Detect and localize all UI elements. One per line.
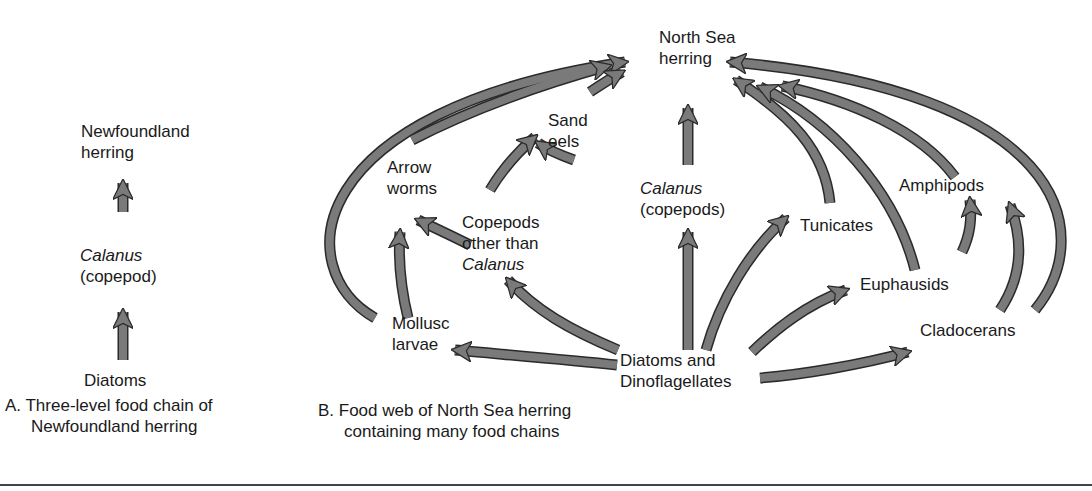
node-diatoms-dinoflagellates: Diatoms and Dinoflagellates [620, 350, 732, 392]
arrow-diatoms-to-cladocerans [760, 352, 908, 378]
node-label: worms [387, 178, 437, 199]
node-label: larvae [392, 334, 450, 355]
node-arrow-worms: Arrow worms [387, 157, 437, 199]
node-copepods-other: Copepods other than Calanus [462, 212, 540, 275]
caption-line: Newfoundland herring [5, 416, 213, 437]
caption-line: B. Food web of North Sea herring [318, 400, 571, 421]
node-calanus-copepods: Calanus (copepods) [640, 178, 725, 220]
node-label: Arrow [387, 157, 437, 178]
node-label: North Sea [659, 27, 736, 48]
node-label: herring [81, 142, 190, 163]
node-north-sea-herring: North Sea herring [659, 27, 736, 69]
caption-b: B. Food web of North Sea herring contain… [318, 400, 571, 442]
node-label: Newfoundland [81, 121, 190, 142]
node-label: Diatoms and [620, 350, 732, 371]
node-tunicates: Tunicates [800, 215, 873, 236]
node-label: herring [659, 48, 736, 69]
node-mollusc-larvae: Mollusc larvae [392, 313, 450, 355]
node-amphipods: Amphipods [899, 175, 984, 196]
node-cladocerans: Cladocerans [920, 320, 1015, 341]
bottom-divider [0, 484, 1092, 486]
caption-line: containing many food chains [318, 421, 571, 442]
node-label: Calanus [80, 245, 157, 266]
caption-a: A. Three-level food chain of Newfoundlan… [5, 395, 213, 437]
arrow-diatoms-to-euphausids [752, 290, 846, 352]
node-diatoms: Diatoms [84, 370, 146, 391]
node-label: Calanus [640, 178, 725, 199]
node-label: Mollusc [392, 313, 450, 334]
arrow-copepods-to-sandeels [490, 137, 535, 190]
node-label: Copepods [462, 212, 540, 233]
node-label: (copepods) [640, 199, 725, 220]
node-sand-eels: Sand eels [548, 110, 588, 152]
arrow-mollusc-to-herring [330, 62, 625, 318]
node-label: (copepod) [80, 266, 157, 287]
node-label: other than [462, 233, 540, 254]
node-label: Sand [548, 110, 588, 131]
node-label: Dinoflagellates [620, 371, 732, 392]
node-newfoundland-herring: Newfoundland herring [81, 121, 190, 163]
node-label: Calanus [462, 254, 540, 275]
node-label: eels [548, 131, 588, 152]
node-calanus-copepod: Calanus (copepod) [80, 245, 157, 287]
caption-line: A. Three-level food chain of [5, 395, 213, 416]
node-euphausids: Euphausids [860, 274, 949, 295]
